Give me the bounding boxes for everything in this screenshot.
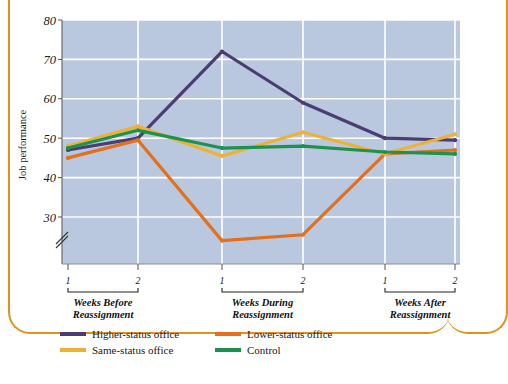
group-bracket xyxy=(222,288,303,292)
y-tick-label: 40 xyxy=(44,171,57,185)
data-point xyxy=(453,148,457,152)
group-label-line1: Weeks After xyxy=(394,297,447,308)
x-axis-ticks: 121212 xyxy=(66,264,458,286)
x-tick-label: 1 xyxy=(220,275,225,286)
data-point xyxy=(66,146,70,150)
data-point xyxy=(453,132,457,136)
data-point xyxy=(301,233,305,237)
y-tick-label: 80 xyxy=(44,14,57,28)
data-point xyxy=(301,101,305,105)
group-label-line2: Reassignment xyxy=(72,309,135,320)
data-point xyxy=(220,49,224,53)
data-point xyxy=(136,138,140,142)
x-tick-label: 1 xyxy=(66,275,71,286)
data-point xyxy=(453,138,457,142)
group-label-line2: Reassignment xyxy=(389,309,452,320)
data-point xyxy=(220,154,224,158)
y-tick-label: 60 xyxy=(44,92,57,106)
legend-label: Lower-status office xyxy=(247,328,333,340)
data-point xyxy=(220,146,224,150)
y-tick-label: 70 xyxy=(44,53,57,67)
group-bracket xyxy=(385,288,455,292)
chart-legend: Higher-status officeLower-status officeS… xyxy=(60,328,333,356)
data-point xyxy=(301,130,305,134)
data-point xyxy=(453,152,457,156)
y-axis-ticks: 304050607080 xyxy=(43,14,63,225)
group-label-line2: Reassignment xyxy=(231,309,294,320)
y-axis-title: Job performance xyxy=(17,109,28,180)
data-point xyxy=(383,136,387,140)
x-axis-group-labels: Weeks BeforeReassignmentWeeks DuringReas… xyxy=(68,288,455,320)
data-point xyxy=(136,128,140,132)
data-point xyxy=(383,150,387,154)
x-tick-label: 2 xyxy=(136,275,141,286)
group-label-line1: Weeks Before xyxy=(74,297,133,308)
x-tick-label: 1 xyxy=(383,275,388,286)
y-tick-label: 50 xyxy=(44,132,57,146)
data-point xyxy=(301,144,305,148)
data-point xyxy=(66,156,70,160)
x-tick-label: 2 xyxy=(301,275,306,286)
legend-label: Same-status office xyxy=(92,344,173,356)
x-tick-label: 2 xyxy=(453,275,458,286)
data-point xyxy=(136,124,140,128)
legend-label: Higher-status office xyxy=(92,328,179,340)
group-bracket xyxy=(68,288,138,292)
group-label-line1: Weeks During xyxy=(232,297,293,308)
data-point xyxy=(220,239,224,243)
y-tick-label: 30 xyxy=(43,211,57,225)
legend-label: Control xyxy=(247,344,281,356)
